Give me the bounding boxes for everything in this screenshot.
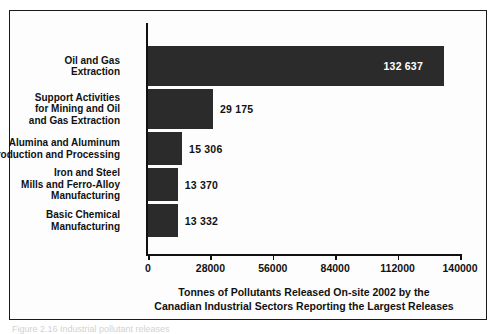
x-tick-label: 140000 <box>442 262 477 274</box>
bar-value-label: 13 370 <box>185 179 218 191</box>
x-tick-label: 0 <box>145 262 151 274</box>
bar-row[interactable]: 13 370 <box>148 168 460 201</box>
category-label-line: Basic Chemical <box>0 209 120 221</box>
bar-value-label: 13 332 <box>185 215 218 227</box>
bar-value-label: 132 637 <box>384 60 423 72</box>
category-label-line: Support Activities <box>0 92 120 104</box>
caption-line-2: Canadian Industrial Sectors Reporting th… <box>130 300 478 314</box>
x-tick-mark <box>273 254 275 260</box>
bar-row[interactable]: 132 637 <box>148 46 460 86</box>
bars-container: 132 63729 17515 30613 37013 332 <box>148 11 460 254</box>
bar-value-label: 29 175 <box>220 103 253 115</box>
caption-line-1: Tonnes of Pollutants Released On-site 20… <box>130 286 478 300</box>
bar[interactable] <box>148 89 213 129</box>
category-label-line: Manufacturing <box>0 221 120 233</box>
category-label-line: Mills and Ferro-Alloy <box>0 179 120 191</box>
chart-caption: Tonnes of Pollutants Released On-site 20… <box>130 286 478 313</box>
x-tick-mark <box>148 254 150 260</box>
category-label-line: Oil and Gas <box>0 55 120 67</box>
category-label: Alumina and AluminumProduction and Proce… <box>0 137 120 160</box>
bar[interactable] <box>148 168 178 201</box>
figure-frame: 132 63729 17515 30613 37013 332 Oil and … <box>9 10 487 320</box>
category-label-line: and Gas Extraction <box>0 115 120 127</box>
category-label: Oil and GasExtraction <box>0 55 120 78</box>
bar-value-label: 15 306 <box>189 143 222 155</box>
category-label: Iron and SteelMills and Ferro-AlloyManuf… <box>0 167 120 202</box>
bar[interactable] <box>148 204 178 237</box>
category-label-line: for Mining and Oil <box>0 103 120 115</box>
x-tick-label: 84000 <box>321 262 350 274</box>
bar-row[interactable]: 13 332 <box>148 204 460 237</box>
plot-area: 132 63729 17515 30613 37013 332 Oil and … <box>10 11 486 319</box>
x-tick-mark <box>210 254 212 260</box>
x-tick-mark <box>398 254 400 260</box>
category-label-line: Iron and Steel <box>0 167 120 179</box>
x-tick-label: 28000 <box>196 262 225 274</box>
category-label: Basic ChemicalManufacturing <box>0 209 120 232</box>
bar-row[interactable]: 15 306 <box>148 132 460 165</box>
figure-number-text: Figure 2.16 Industrial pollutant release… <box>12 324 170 334</box>
category-label-line: Extraction <box>0 66 120 78</box>
x-tick-mark <box>335 254 337 260</box>
x-tick-mark <box>460 254 462 260</box>
category-label-line: Production and Processing <box>0 149 120 161</box>
category-label-line: Manufacturing <box>0 190 120 202</box>
bar[interactable] <box>148 132 182 165</box>
x-axis-line <box>146 254 460 256</box>
category-label: Support Activitiesfor Mining and Oiland … <box>0 92 120 127</box>
bar-row[interactable]: 29 175 <box>148 89 460 129</box>
category-label-line: Alumina and Aluminum <box>0 137 120 149</box>
x-tick-label: 112000 <box>380 262 414 274</box>
x-tick-label: 56000 <box>258 262 287 274</box>
